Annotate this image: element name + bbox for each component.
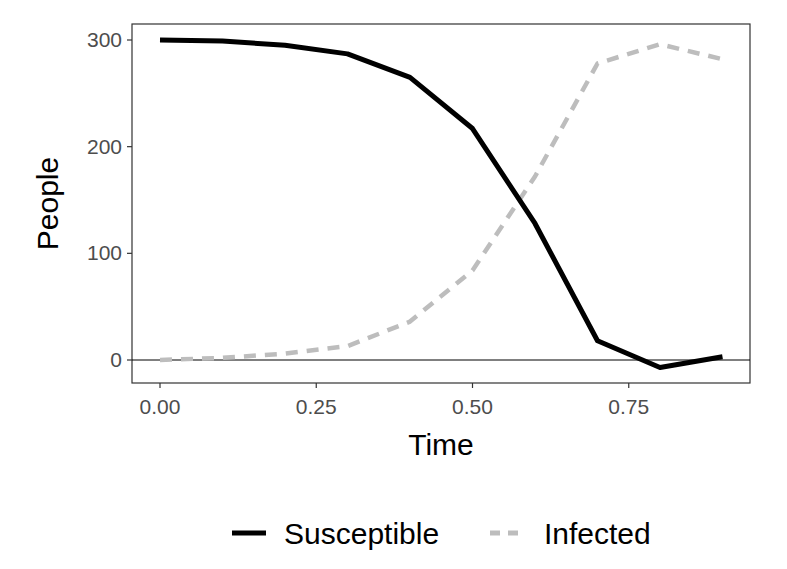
x-axis-title: Time — [408, 428, 474, 461]
x-axis: 0.000.250.500.75 — [140, 383, 650, 418]
legend-label-susceptible: Susceptible — [284, 517, 439, 550]
y-tick-label: 100 — [87, 241, 122, 264]
y-axis-title: People — [31, 157, 64, 250]
y-tick-label: 200 — [87, 135, 122, 158]
x-tick-label: 0.25 — [296, 395, 337, 418]
legend-label-infected: Infected — [544, 517, 651, 550]
y-tick-label: 0 — [110, 348, 122, 371]
x-tick-label: 0.75 — [608, 395, 649, 418]
legend: SusceptibleInfected — [232, 517, 651, 550]
plot-panel — [132, 24, 750, 383]
x-tick-label: 0.00 — [140, 395, 181, 418]
y-axis: 0100200300 — [87, 28, 132, 371]
x-tick-label: 0.50 — [452, 395, 493, 418]
y-tick-label: 300 — [87, 28, 122, 51]
line-chart: 0100200300 0.000.250.500.75 Time People … — [0, 0, 787, 569]
